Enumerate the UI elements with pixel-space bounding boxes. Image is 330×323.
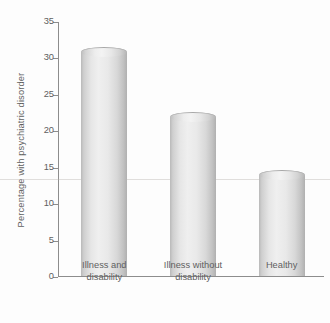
y-tick-label: 30: [44, 54, 54, 63]
x-tick-label-line: Healthy: [234, 260, 330, 272]
y-tick-label: 15: [44, 163, 54, 172]
y-tick-label: 20: [44, 127, 54, 136]
x-tick-label-line: disability: [145, 272, 241, 284]
x-tick-label: Illness withoutdisability: [145, 260, 241, 283]
y-tick-label: 0: [49, 272, 54, 281]
y-axis-title: Percentage with psychiatric disorder: [14, 10, 28, 290]
y-tick-label: 5: [49, 236, 54, 245]
x-tick-label-line: disability: [56, 272, 152, 284]
bar: [170, 117, 216, 276]
plot-area: 05101520253035: [58, 22, 324, 277]
x-tick-label: Healthy: [234, 260, 330, 272]
x-tick-label: Illness anddisability: [56, 260, 152, 283]
y-tick-label: 35: [44, 17, 54, 26]
x-tick-label-line: Illness and: [56, 260, 152, 272]
bar-cap: [259, 170, 305, 180]
bar-cap: [81, 47, 127, 57]
bar: [81, 52, 127, 276]
chart-figure: Percentage with psychiatric disorder 051…: [0, 0, 330, 323]
x-tick-label-line: Illness without: [145, 260, 241, 272]
y-axis-line: [58, 22, 59, 277]
y-tick-label: 25: [44, 90, 54, 99]
y-tick-label: 10: [44, 200, 54, 209]
bar-cap: [170, 112, 216, 122]
